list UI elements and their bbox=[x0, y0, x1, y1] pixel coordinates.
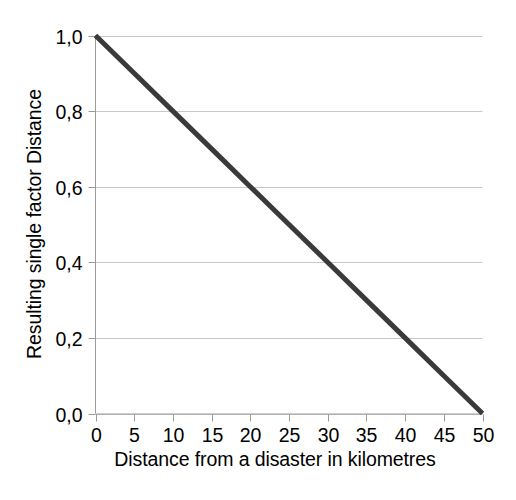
x-tick-label: 35 bbox=[356, 424, 378, 446]
y-axis-tick-labels: 0,00,20,40,60,81,0 bbox=[55, 26, 82, 426]
x-tick-label: 50 bbox=[473, 424, 495, 446]
x-axis-ticks bbox=[97, 415, 484, 422]
chart-container: Resulting single factor Distance Distanc… bbox=[0, 0, 516, 500]
x-tick-label: 40 bbox=[395, 424, 417, 446]
y-axis-ticks bbox=[89, 37, 96, 415]
y-tick-label: 0,0 bbox=[55, 404, 82, 426]
x-tick-label: 0 bbox=[91, 424, 102, 446]
series-line bbox=[96, 36, 483, 414]
y-tick-label: 0,8 bbox=[55, 101, 82, 123]
x-tick-label: 20 bbox=[240, 424, 262, 446]
line-chart-plot: 0,00,20,40,60,81,0 05101520253035404550 bbox=[0, 0, 516, 500]
y-tick-label: 1,0 bbox=[55, 26, 82, 48]
y-tick-label: 0,6 bbox=[55, 177, 82, 199]
y-tick-label: 0,4 bbox=[55, 252, 82, 274]
x-tick-label: 5 bbox=[129, 424, 140, 446]
x-tick-label: 45 bbox=[434, 424, 456, 446]
y-tick-label: 0,2 bbox=[55, 328, 82, 350]
x-tick-label: 30 bbox=[318, 424, 340, 446]
x-axis-tick-labels: 05101520253035404550 bbox=[91, 424, 494, 446]
x-tick-label: 15 bbox=[202, 424, 224, 446]
data-series bbox=[96, 36, 483, 414]
x-tick-label: 10 bbox=[163, 424, 185, 446]
x-tick-label: 25 bbox=[279, 424, 301, 446]
